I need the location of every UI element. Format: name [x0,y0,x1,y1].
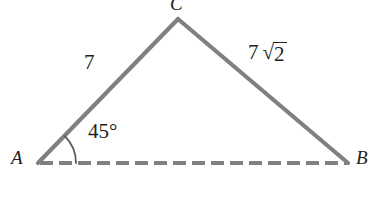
angle-measure-label-a: 45° [88,121,117,142]
side-length-label-ac: 7 [84,52,95,73]
vertex-label-c: C [170,0,183,13]
radicand-cb: 2 [273,42,287,65]
geometry-figure-canvas: A B C 7 7 √ 2 45° [0,0,376,197]
side-length-label-cb: 7 √ 2 [248,42,287,65]
triangle-diagram-svg [0,0,376,197]
radical-group-cb: √ 2 [263,42,287,65]
angle-arc-at-a [65,136,76,163]
vertex-label-a: A [11,148,23,167]
side-length-coefficient-cb: 7 [248,42,259,63]
vertex-label-b: B [356,148,368,167]
